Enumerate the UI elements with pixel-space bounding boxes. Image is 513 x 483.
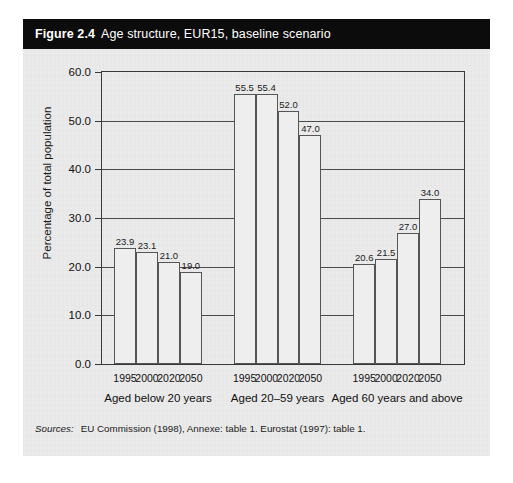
y-axis-tick bbox=[95, 315, 102, 316]
x-axis-tick-label: 2020 bbox=[157, 372, 180, 384]
bar-value-label: 23.1 bbox=[138, 240, 157, 251]
figure-container: Figure 2.4 Age structure, EUR15, baselin… bbox=[23, 19, 490, 456]
bar-value-label: 23.9 bbox=[116, 236, 135, 247]
x-axis-group-label: Aged 20–59 years bbox=[231, 392, 324, 404]
y-axis-tick-label: 60.0 bbox=[69, 66, 91, 78]
bar-value-label: 20.6 bbox=[355, 252, 374, 263]
bar-value-label: 34.0 bbox=[421, 187, 440, 198]
figure-title-bar: Figure 2.4 Age structure, EUR15, baselin… bbox=[23, 19, 490, 49]
bar: 55.5 bbox=[234, 94, 256, 364]
bar-value-label: 55.5 bbox=[235, 82, 254, 93]
y-axis-tick bbox=[95, 72, 102, 73]
bar: 27.0 bbox=[397, 233, 419, 364]
x-axis-tick-label: 2020 bbox=[277, 372, 300, 384]
bar: 47.0 bbox=[299, 135, 321, 364]
x-axis-tick-label: 2000 bbox=[374, 372, 397, 384]
x-axis-tick-label: 2000 bbox=[135, 372, 158, 384]
bar-value-label: 55.4 bbox=[257, 82, 276, 93]
sources-line: Sources:EU Commission (1998), Annexe: ta… bbox=[35, 423, 365, 434]
x-axis-group-label: Aged below 20 years bbox=[104, 392, 211, 404]
bar: 23.1 bbox=[136, 252, 158, 364]
bar-value-label: 47.0 bbox=[301, 123, 320, 134]
bar: 21.5 bbox=[375, 259, 397, 364]
x-axis-tick-label: 1995 bbox=[233, 372, 256, 384]
y-axis-tick-label: 40.0 bbox=[69, 163, 91, 175]
bar: 19.0 bbox=[180, 272, 202, 364]
bar: 55.4 bbox=[256, 94, 278, 364]
y-axis-tick-label: 30.0 bbox=[69, 212, 91, 224]
x-axis-tick-label: 2050 bbox=[179, 372, 202, 384]
y-axis-tick bbox=[95, 218, 102, 219]
figure-title: Age structure, EUR15, baseline scenario bbox=[101, 27, 331, 41]
bar: 20.6 bbox=[353, 264, 375, 364]
y-axis-tick-label: 20.0 bbox=[69, 261, 91, 273]
y-axis-tick-label: 50.0 bbox=[69, 115, 91, 127]
bar: 21.0 bbox=[158, 262, 180, 364]
x-axis-tick-label: 2000 bbox=[255, 372, 278, 384]
bar: 23.9 bbox=[114, 248, 136, 364]
y-axis-tick bbox=[95, 169, 102, 170]
y-axis-tick-label: 10.0 bbox=[69, 309, 91, 321]
bar-value-label: 19.0 bbox=[182, 260, 201, 271]
x-axis-tick-label: 2050 bbox=[418, 372, 441, 384]
bar-value-label: 21.5 bbox=[377, 247, 396, 258]
y-axis-tick bbox=[95, 121, 102, 122]
y-axis-tick-label: 0.0 bbox=[75, 358, 91, 370]
sources-label: Sources: bbox=[35, 423, 74, 434]
y-axis-label: Percentage of total population bbox=[41, 83, 53, 283]
figure-number: Figure 2.4 bbox=[35, 27, 95, 41]
bar-value-label: 21.0 bbox=[160, 250, 179, 261]
bar-value-label: 52.0 bbox=[279, 99, 298, 110]
bar: 52.0 bbox=[278, 111, 300, 364]
x-axis-tick-label: 2020 bbox=[396, 372, 419, 384]
sources-text: EU Commission (1998), Annexe: table 1. E… bbox=[81, 423, 366, 434]
plot-area: 0.010.020.030.040.050.060.023.9199523.12… bbox=[101, 71, 465, 365]
x-axis-group-label: Aged 60 years and above bbox=[332, 392, 463, 404]
x-axis-tick-label: 2050 bbox=[299, 372, 322, 384]
y-axis-tick bbox=[95, 364, 102, 365]
chart-area: Percentage of total population 0.010.020… bbox=[23, 49, 490, 456]
bar: 34.0 bbox=[419, 199, 441, 364]
y-axis-tick bbox=[95, 267, 102, 268]
bar-value-label: 27.0 bbox=[399, 221, 418, 232]
x-axis-tick-label: 1995 bbox=[352, 372, 375, 384]
x-axis-tick-label: 1995 bbox=[113, 372, 136, 384]
figure-page: Figure 2.4 Age structure, EUR15, baselin… bbox=[0, 0, 513, 483]
